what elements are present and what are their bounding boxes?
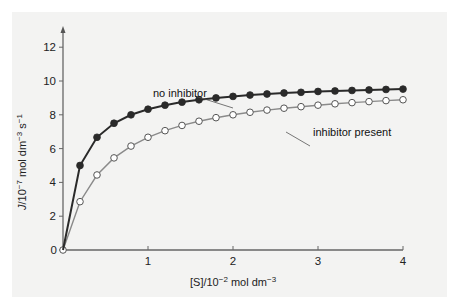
y-axis-title: J/10−7 mol dm−3 s−1 [15, 114, 28, 211]
data-point [400, 86, 407, 93]
x-ticks: 1234 [145, 246, 407, 267]
data-point [179, 99, 186, 106]
data-point [349, 99, 356, 106]
x-tick-label: 3 [315, 255, 321, 267]
x-tick-label: 1 [145, 255, 151, 267]
data-point [315, 88, 322, 95]
data-point [145, 134, 152, 141]
data-point [400, 96, 407, 103]
data-point [332, 101, 339, 108]
y-tick-label: 10 [43, 75, 56, 87]
annotation-inhibitor-present: inhibitor present [286, 126, 391, 146]
annotation-no-inhibitor-label: no inhibitor [153, 87, 207, 99]
chart-svg: 024681012 1234 J/10−7 mol dm−3 s−1 [S]/1… [0, 0, 457, 305]
x-axis-title: [S]/10−2 mol dm−3 [190, 275, 277, 288]
data-point [213, 95, 220, 102]
data-point [77, 162, 84, 169]
data-point [128, 111, 135, 118]
annotation-leader-line [286, 132, 310, 146]
y-tick-label: 12 [43, 41, 56, 53]
data-point [94, 172, 101, 179]
data-point [196, 118, 203, 125]
data-point [281, 105, 288, 112]
data-point [77, 198, 84, 205]
series-inhibitor-present [60, 96, 407, 253]
data-point [264, 107, 271, 114]
data-point [162, 127, 169, 134]
data-point [247, 92, 254, 99]
data-point [264, 91, 271, 98]
y-tick-label: 4 [50, 176, 57, 188]
y-tick-label: 6 [50, 143, 56, 155]
x-tick-label: 2 [230, 255, 236, 267]
data-point [128, 143, 135, 150]
data-point [366, 98, 373, 105]
data-point [145, 106, 152, 113]
y-tick-label: 8 [50, 109, 56, 121]
y-tick-label: 2 [50, 210, 56, 222]
series-layer [60, 86, 407, 254]
data-point [247, 109, 254, 116]
data-point [383, 86, 390, 93]
data-point [281, 90, 288, 97]
data-point [162, 102, 169, 109]
data-point [179, 122, 186, 129]
data-point [315, 102, 322, 109]
annotation-inhibitor-present-label: inhibitor present [313, 126, 391, 138]
series-no-inhibitor [63, 86, 406, 250]
data-point [349, 87, 356, 94]
y-axis-arrow-icon [61, 26, 66, 33]
data-point [332, 88, 339, 95]
data-point [213, 114, 220, 121]
data-point [366, 87, 373, 94]
data-point [230, 93, 237, 100]
data-point [383, 97, 390, 104]
data-point [111, 120, 118, 127]
y-tick-label: 0 [51, 244, 57, 256]
y-ticks: 024681012 [43, 41, 63, 256]
data-point [94, 134, 101, 141]
data-point [111, 155, 118, 162]
x-tick-label: 4 [400, 255, 407, 267]
data-point [298, 89, 305, 96]
data-point [298, 103, 305, 110]
data-point [230, 112, 237, 119]
